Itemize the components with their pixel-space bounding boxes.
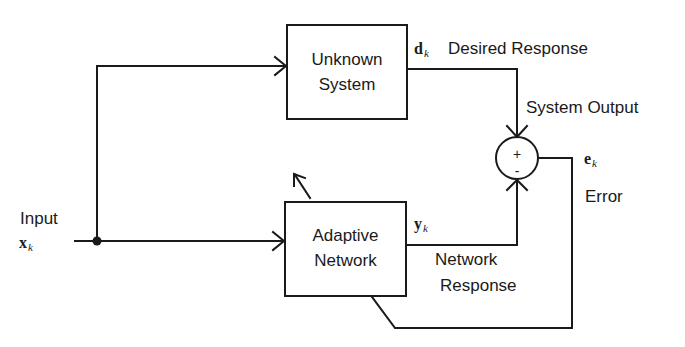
- branch-junction-dot: [93, 237, 102, 246]
- error-symbol-main: e: [584, 150, 591, 167]
- system-output-label: System Output: [526, 98, 638, 118]
- input-symbol-subscript: k: [28, 241, 33, 253]
- input-label: Input: [20, 209, 58, 229]
- plus-sign: +: [511, 147, 523, 161]
- adaptation-arrow-shaft: [295, 175, 310, 198]
- error-symbol-subscript: k: [592, 157, 597, 169]
- unknown-system-label: Unknown System: [287, 47, 407, 97]
- adaptive-network-label-line1: Adaptive: [285, 223, 406, 248]
- desired-response-line: [407, 69, 517, 136]
- desired-symbol-subscript: k: [424, 47, 429, 59]
- minus-sign: -: [511, 164, 523, 178]
- adaptive-network-label: Adaptive Network: [285, 223, 406, 273]
- network-response-label-line1: Network: [435, 250, 497, 270]
- desired-response-label: Desired Response: [448, 39, 588, 59]
- input-branch-line: [97, 66, 286, 241]
- error-symbol: ek: [584, 150, 597, 172]
- input-symbol-main: x: [19, 234, 27, 251]
- unknown-system-label-line2: System: [287, 72, 407, 97]
- unknown-system-label-line1: Unknown: [287, 47, 407, 72]
- network-output-symbol: yk: [414, 215, 428, 237]
- input-symbol: xk: [19, 234, 33, 256]
- network-output-symbol-main: y: [414, 215, 422, 232]
- network-output-symbol-subscript: k: [423, 222, 428, 234]
- adaptive-network-label-line2: Network: [285, 248, 406, 273]
- desired-symbol-main: d: [414, 40, 423, 57]
- network-response-label-line2: Response: [440, 276, 517, 296]
- error-label: Error: [585, 187, 623, 207]
- desired-symbol: dk: [414, 40, 429, 62]
